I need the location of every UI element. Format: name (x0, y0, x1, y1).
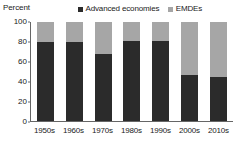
y-tick-mark (28, 82, 30, 83)
bar-column (210, 22, 227, 121)
legend-swatch-advanced-economies (78, 7, 83, 12)
x-tick-label: 2010s (205, 126, 233, 136)
bar-column (123, 22, 140, 121)
y-tick-mark (28, 102, 30, 103)
bar-segment (152, 22, 169, 41)
plot-area: 020406080100 (30, 22, 233, 122)
bar-segment (66, 22, 83, 42)
legend-label-emdes: EMDEs (176, 4, 202, 14)
bars-container (31, 22, 233, 121)
bar-segment (152, 41, 169, 121)
bar-segment (37, 22, 54, 42)
y-tick-label: 40 (18, 78, 27, 86)
y-tick-mark (28, 42, 30, 43)
bar-segment (123, 22, 140, 41)
x-axis-ticks: 1950s1960s1970s1980s1990s2000s2010s (30, 126, 233, 140)
bar-column (181, 22, 198, 121)
bar-segment (210, 22, 227, 77)
y-tick-label: 0 (23, 118, 27, 126)
y-tick-mark (28, 22, 30, 23)
y-tick-label: 80 (18, 38, 27, 46)
y-tick-mark (28, 62, 30, 63)
bar-segment (95, 54, 112, 121)
bar-segment (210, 77, 227, 121)
bar-segment (66, 42, 83, 121)
y-tick-label: 60 (18, 58, 27, 66)
y-tick-label: 100 (14, 18, 27, 26)
x-axis-line (30, 121, 233, 122)
y-axis-title: Percent (3, 3, 30, 13)
bar-segment (123, 41, 140, 121)
bar-segment (181, 75, 198, 121)
legend-item-emdes: EMDEs (168, 4, 202, 14)
bar-segment (95, 22, 112, 54)
x-tick-label: 1970s (89, 126, 117, 136)
stacked-bar-chart: Percent Advanced economies EMDEs 0204060… (0, 0, 237, 144)
chart-legend: Advanced economies EMDEs (78, 3, 236, 15)
y-tick-mark (28, 122, 30, 123)
legend-swatch-emdes (168, 7, 173, 12)
legend-label-advanced-economies: Advanced economies (86, 4, 160, 14)
bar-column (152, 22, 169, 121)
x-tick-label: 1980s (118, 126, 146, 136)
bar-segment (181, 22, 198, 75)
x-tick-label: 1950s (31, 126, 59, 136)
bar-segment (37, 42, 54, 121)
bar-column (66, 22, 83, 121)
x-tick-label: 2000s (176, 126, 204, 136)
x-tick-label: 1990s (147, 126, 175, 136)
y-tick-label: 20 (18, 98, 27, 106)
legend-item-advanced-economies: Advanced economies (78, 4, 159, 14)
x-tick-label: 1960s (60, 126, 88, 136)
bar-column (95, 22, 112, 121)
bar-column (37, 22, 54, 121)
